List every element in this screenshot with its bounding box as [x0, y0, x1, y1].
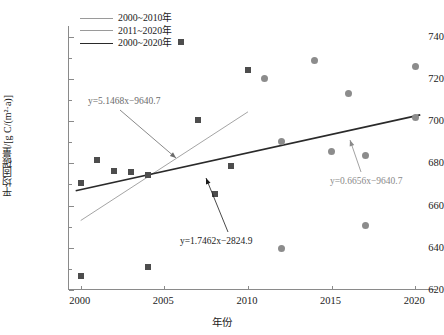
annotation-arrow — [206, 178, 228, 232]
annotation-arrows — [0, 0, 444, 335]
annotation-arrow — [350, 140, 361, 172]
chart-figure: 平均固碳量/[g C/(m²·a)] 620640660680700720740… — [0, 0, 444, 335]
annotation-arrow — [120, 110, 176, 158]
